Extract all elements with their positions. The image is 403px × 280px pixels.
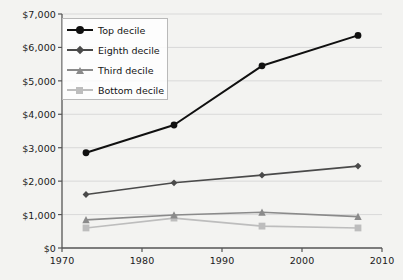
- y-axis-tick-label: $2,000: [22, 176, 56, 187]
- line-chart-plot: [0, 0, 403, 280]
- y-axis-tick-label: $4,000: [22, 109, 56, 120]
- legend-point-swatch: [76, 46, 84, 54]
- legend-point-swatch: [76, 87, 83, 94]
- legend-marker-eighth-decile: [67, 44, 93, 56]
- y-axis-tick-label: $5,000: [22, 75, 56, 86]
- y-axis-tick-label: $7,000: [22, 9, 56, 20]
- series-line-third-decile: [86, 212, 358, 220]
- series-line-bottom-decile: [86, 218, 358, 228]
- data-point-top-decile: [259, 62, 266, 69]
- data-point-eighth-decile: [83, 191, 90, 198]
- legend-marker-top-decile: [67, 24, 93, 36]
- y-axis-tick-label: $3,000: [22, 142, 56, 153]
- legend-label-eighth-decile: Eighth decile: [98, 45, 160, 56]
- data-point-eighth-decile: [259, 172, 266, 179]
- legend-item-third-decile: Third decile: [67, 60, 153, 80]
- data-point-bottom-decile: [259, 223, 266, 230]
- legend-marker-bottom-decile: [67, 84, 93, 96]
- legend-item-eighth-decile: Eighth decile: [67, 40, 160, 60]
- legend-point-swatch: [76, 67, 84, 74]
- data-point-top-decile: [83, 149, 90, 156]
- x-axis-tick-label: 1970: [50, 255, 75, 266]
- legend-point-swatch: [76, 26, 84, 34]
- y-axis-tick-label: $1,000: [22, 209, 56, 220]
- legend-marker-third-decile: [67, 64, 93, 76]
- legend-label-top-decile: Top decile: [98, 25, 145, 36]
- legend-label-third-decile: Third decile: [98, 65, 153, 76]
- y-axis-tick-label: $6,000: [22, 42, 56, 53]
- legend-label-bottom-decile: Bottom decile: [98, 85, 164, 96]
- data-point-bottom-decile: [83, 225, 90, 232]
- x-axis-tick-label: 2010: [370, 255, 395, 266]
- chart-figure: $0$1,000$2,000$3,000$4,000$5,000$6,000$7…: [0, 0, 403, 280]
- data-point-eighth-decile: [355, 163, 362, 170]
- legend-item-top-decile: Top decile: [67, 20, 145, 40]
- data-point-eighth-decile: [171, 179, 178, 186]
- chart-legend: Top decile Eighth decile Third decile Bo…: [62, 18, 168, 100]
- legend-item-bottom-decile: Bottom decile: [67, 80, 164, 100]
- x-axis-tick-label: 1980: [130, 255, 155, 266]
- data-point-bottom-decile: [355, 225, 362, 232]
- data-point-top-decile: [171, 122, 178, 129]
- y-axis-tick-label: $0: [44, 243, 56, 254]
- x-axis-tick-label: 1990: [210, 255, 235, 266]
- x-axis-tick-label: 2000: [290, 255, 315, 266]
- data-point-top-decile: [355, 32, 362, 39]
- series-line-eighth-decile: [86, 166, 358, 194]
